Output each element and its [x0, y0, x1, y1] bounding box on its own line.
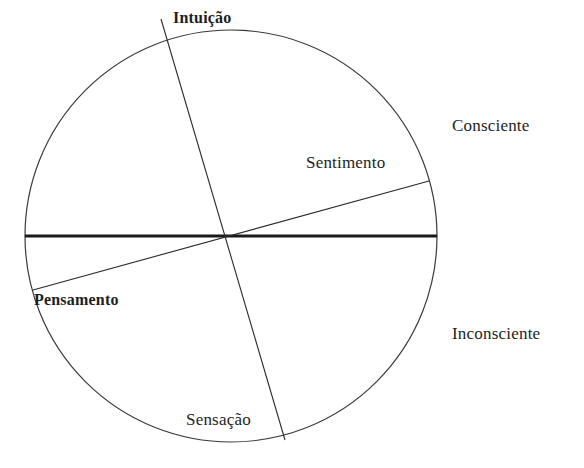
- label-conscious: Consciente: [452, 117, 530, 134]
- psychological-functions-diagram: [0, 0, 584, 468]
- intuition-sensation-axis: [161, 19, 285, 440]
- label-sensation: Sensação: [186, 411, 251, 428]
- label-unconscious: Inconsciente: [452, 325, 540, 342]
- label-feeling: Sentimento: [306, 154, 385, 171]
- label-thinking: Pensamento: [34, 292, 119, 308]
- label-intuition: Intuição: [173, 10, 232, 26]
